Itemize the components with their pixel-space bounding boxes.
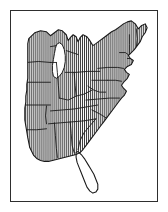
map-frame xyxy=(10,10,158,202)
figure-root: Eastern United States xyxy=(0,0,168,212)
eastern-us-map xyxy=(11,11,157,201)
shaded-region-fill xyxy=(11,11,157,201)
